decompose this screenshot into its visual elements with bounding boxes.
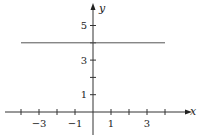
- y-tick-label: 1: [81, 89, 87, 100]
- tick-labels: −3−113135: [32, 20, 151, 129]
- axes: [5, 3, 192, 135]
- y-axis-arrow: [91, 3, 96, 10]
- y-axis-label: y: [98, 2, 106, 15]
- y-tick-label: 5: [81, 20, 87, 31]
- y-tick-label: 3: [81, 55, 87, 66]
- x-axis-label: x: [190, 105, 197, 118]
- x-tick-label: −3: [32, 118, 47, 129]
- chart: −3−113135 x y: [0, 0, 197, 137]
- x-tick-label: −1: [68, 118, 83, 129]
- x-tick-label: 1: [108, 118, 114, 129]
- x-tick-label: 3: [144, 118, 150, 129]
